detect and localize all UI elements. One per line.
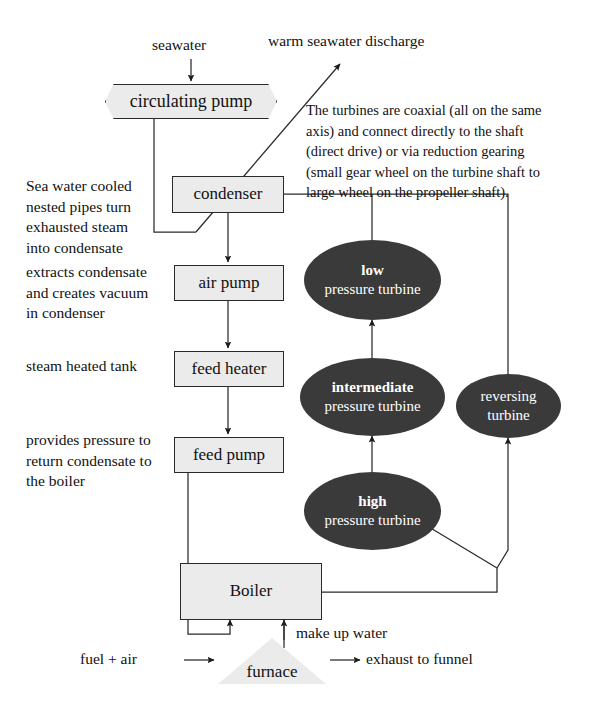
turbine-suffix-label: turbine [487,406,530,425]
node-reversing-turbine[interactable]: reversing turbine [456,374,561,438]
turbine-kind-label: low [361,261,384,280]
label-seawater: seawater [152,36,206,54]
annotation-feed-heater: steam heated tank [26,356,186,377]
turbine-suffix-label: pressure turbine [324,511,420,530]
annotation-turbine-arrangement: The turbines are coaxial (all on the sam… [306,100,574,203]
label-exhaust-to-funnel: exhaust to funnel [366,650,473,668]
node-low-pressure-turbine[interactable]: low pressure turbine [304,240,441,320]
node-feed-heater[interactable]: feed heater [174,351,284,387]
annotation-condenser: Sea water cooled nested pipes turn exhau… [26,176,176,258]
connector-branch-to-reversing-turbine [497,438,508,568]
label-warm-seawater-discharge: warm seawater discharge [268,32,424,50]
node-condenser[interactable]: condenser [172,176,284,213]
node-high-pressure-turbine[interactable]: high pressure turbine [304,472,441,550]
node-intermediate-pressure-turbine[interactable]: intermediate pressure turbine [300,358,445,436]
node-circulating-pump[interactable]: circulating pump [105,84,277,119]
label-make-up-water: make up water [296,624,387,642]
steam-plant-diagram: seawater warm seawater discharge make up… [0,0,592,719]
turbine-suffix-label: pressure turbine [324,397,420,416]
annotation-feed-pump: provides pressure to return condensate t… [26,430,186,492]
connector-boiler-to-steam-branch [322,568,497,592]
turbine-kind-label: intermediate [332,378,414,397]
node-air-pump[interactable]: air pump [174,265,284,301]
turbine-kind-label: reversing [481,387,537,406]
turbine-kind-label: high [358,492,386,511]
label-fuel-air: fuel + air [80,650,137,668]
node-feed-pump[interactable]: feed pump [174,437,284,473]
turbine-suffix-label: pressure turbine [324,280,420,299]
annotation-air-pump: extracts condensate and creates vacuum i… [26,262,186,324]
node-boiler[interactable]: Boiler [180,563,322,620]
